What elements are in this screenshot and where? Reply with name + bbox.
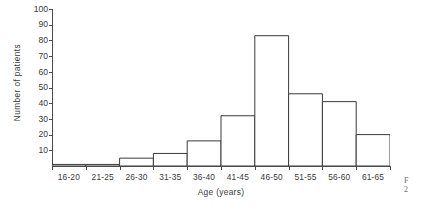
y-axis-tick-label: 40 (38, 99, 48, 108)
histogram-bar (153, 153, 187, 166)
y-axis-tick-label: 60 (38, 68, 48, 77)
y-axis-tick-mark (49, 25, 52, 26)
caption-line-1: F (404, 176, 421, 185)
x-axis-tick-mark (187, 166, 188, 170)
histogram-bar (86, 164, 120, 166)
y-axis-tick-label: 100 (34, 5, 48, 14)
histogram-bar (221, 116, 255, 166)
histogram-bar (52, 164, 86, 166)
x-axis-tick-label: 46-50 (255, 172, 289, 182)
x-axis-tick-label: 51-55 (289, 172, 323, 182)
y-axis-tick-label: 90 (38, 20, 48, 29)
x-axis-tick-label: 21-25 (86, 172, 120, 182)
histogram-bar (322, 102, 356, 166)
y-axis-tick-mark (49, 72, 52, 73)
y-axis-tick-label: 30 (38, 115, 48, 124)
y-axis-tick-label: 50 (38, 83, 48, 92)
histogram-bar (255, 36, 289, 166)
plot-area (52, 9, 390, 166)
x-axis-tick-label: 56-60 (322, 172, 356, 182)
caption-line-2: 2 (404, 185, 421, 194)
x-axis-tick-mark (153, 166, 154, 170)
histogram-bar (289, 94, 323, 166)
x-axis-tick-label: 61-65 (356, 172, 390, 182)
x-axis-tick-label: 36-40 (187, 172, 221, 182)
y-axis-tick-mark (49, 103, 52, 104)
y-axis-tick-mark (49, 56, 52, 57)
x-axis-tick-mark (289, 166, 290, 170)
y-axis-tick-mark (49, 135, 52, 136)
y-axis-tick-label: 80 (38, 36, 48, 45)
histogram-bar (120, 158, 154, 166)
y-axis-tick-mark (49, 9, 52, 10)
x-axis-tick-label: 16-20 (52, 172, 86, 182)
x-axis-tick-label: 26-30 (120, 172, 154, 182)
x-axis-tick-label: 41-45 (221, 172, 255, 182)
x-axis-tick-mark (52, 166, 53, 170)
y-axis-tick-label: 70 (38, 52, 48, 61)
histogram-figure: Number of patients 102030405060708090100… (0, 0, 421, 215)
x-axis-tick-mark (255, 166, 256, 170)
x-axis-title: Age (years) (52, 187, 390, 197)
y-axis-tick-mark (49, 88, 52, 89)
y-axis-tick-label: 10 (38, 146, 48, 155)
x-axis-tick-mark (322, 166, 323, 170)
histogram-bar (187, 141, 221, 166)
y-axis-tick-mark (49, 40, 52, 41)
x-axis-tick-mark (221, 166, 222, 170)
histogram-bars (52, 9, 390, 166)
x-axis-tick-label: 31-35 (153, 172, 187, 182)
x-axis-tick-mark (356, 166, 357, 170)
x-axis-tick-mark (120, 166, 121, 170)
y-axis-tick-mark (49, 150, 52, 151)
histogram-bar (356, 135, 390, 166)
y-axis-tick-mark (49, 119, 52, 120)
x-axis-tick-labels: 16-2021-2526-3031-3536-4041-4546-5051-55… (52, 172, 390, 186)
y-axis-tick-label: 20 (38, 130, 48, 139)
y-axis-title: Number of patients (13, 28, 22, 138)
figure-caption-clipped: F 2 (404, 176, 421, 194)
x-axis-tick-mark (390, 166, 391, 170)
x-axis-tick-mark (86, 166, 87, 170)
y-axis-tick-labels: 102030405060708090100 (22, 0, 48, 180)
